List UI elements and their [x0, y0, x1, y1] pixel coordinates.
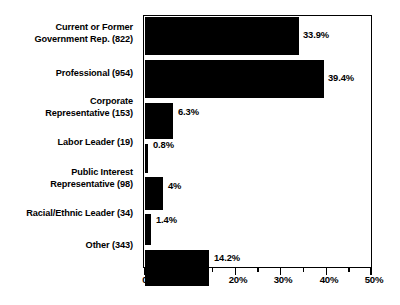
tick-minor-35: [303, 268, 304, 272]
tick-minor-15: [212, 268, 213, 272]
data-label-public-interest-representative: 4%: [168, 181, 181, 191]
tick-label-40: 40%: [320, 274, 339, 285]
bar-corporate-representative: [145, 103, 174, 139]
bar-current-or-former-government-rep: [145, 17, 299, 55]
category-label-professional: Professional (954): [56, 68, 133, 80]
category-label-corporate-representative: Corporate Representative (153): [45, 96, 133, 119]
data-label-racial-ethnic-leader: 1.4%: [156, 215, 177, 225]
bar-chart: Current or Former Government Rep. (822) …: [0, 0, 400, 305]
category-label-other: Other (343): [86, 240, 133, 252]
bar-professional: [145, 60, 324, 98]
bars-layer: [145, 17, 372, 267]
tick-label-30: 30%: [274, 274, 293, 285]
bar-public-interest-representative: [145, 177, 163, 210]
category-axis-labels: Current or Former Government Rep. (822) …: [0, 0, 139, 305]
bar-labor-leader: [145, 144, 149, 173]
data-label-other: 14.2%: [214, 253, 240, 263]
tick-label-50: 50%: [365, 274, 384, 285]
category-label-racial-ethnic-leader: Racial/Ethnic Leader (34): [26, 208, 133, 220]
tick-minor-45: [348, 268, 349, 272]
data-label-labor-leader: 0.8%: [153, 140, 174, 150]
bar-racial-ethnic-leader: [145, 214, 151, 245]
category-label-current-or-former-government-rep: Current or Former Government Rep. (822): [35, 22, 133, 45]
tick-label-0: 0%: [142, 274, 155, 285]
data-label-current-or-former-government-rep: 33.9%: [303, 30, 329, 40]
tick-label-20: 20%: [229, 274, 248, 285]
data-label-corporate-representative: 6.3%: [178, 107, 199, 117]
data-label-professional: 39.4%: [328, 73, 354, 83]
tick-label-10: 10%: [183, 274, 202, 285]
tick-minor-25: [257, 268, 258, 272]
category-label-labor-leader: Labor Leader (19): [58, 137, 133, 149]
tick-minor-5: [166, 268, 167, 272]
x-axis-tick-labels: 0% 10% 20% 30% 40% 50%: [0, 274, 400, 290]
category-label-public-interest-representative: Public Interest Representative (98): [50, 167, 133, 190]
